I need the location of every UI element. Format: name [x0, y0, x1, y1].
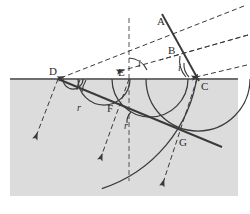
diagram-canvas — [0, 0, 250, 214]
angle-label-i-at-c: i — [178, 63, 181, 73]
point-label-g: G — [179, 137, 187, 148]
point-label-d: D — [49, 66, 57, 77]
point-label-a: A — [157, 16, 165, 27]
angle-label-r-at-f: r — [124, 121, 128, 131]
point-label-e: E — [118, 67, 125, 78]
angle-label-i-at-e: i — [138, 59, 141, 69]
point-label-b: B — [168, 45, 175, 56]
incident-ray-1 — [58, 6, 244, 79]
point-label-f: F — [107, 103, 113, 114]
incident-ray-3 — [192, 65, 247, 78]
angle-label-r-at-d: r — [77, 103, 81, 113]
point-label-c: C — [201, 81, 208, 92]
huygens-refraction-diagram: A B C D E F G i i r r — [0, 0, 250, 214]
